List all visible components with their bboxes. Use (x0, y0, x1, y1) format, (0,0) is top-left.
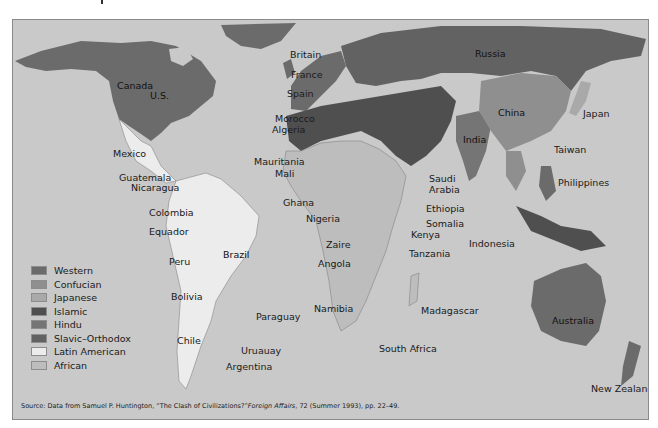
label-nigeria: Nigeria (306, 213, 340, 224)
legend-label: Slavic–Orthodox (54, 333, 131, 344)
legend-item-confucian: Confucian (31, 278, 131, 292)
label-spain: Spain (287, 88, 314, 99)
label-ghana: Ghana (283, 197, 314, 208)
label-namibia: Namibia (314, 303, 353, 314)
legend-swatch (31, 307, 47, 316)
southeast-asia (506, 151, 526, 191)
label-britain: Britain (290, 49, 321, 60)
label-zaire: Zaire (326, 239, 351, 250)
label-canada: Canada (117, 80, 153, 91)
legend-label: Islamic (54, 306, 87, 317)
legend-item-slavic-orthodox: Slavic–Orthodox (31, 332, 131, 346)
label-taiwan: Taiwan (554, 144, 586, 155)
label-colombia: Colombia (149, 207, 194, 218)
label-equador: Equador (149, 226, 189, 237)
label-philippines: Philippines (558, 177, 609, 188)
legend-swatch (31, 280, 47, 289)
label-south-africa: South Africa (379, 343, 437, 354)
label-argentina: Argentina (226, 361, 272, 372)
legend-label: Latin American (54, 346, 126, 357)
region-latin-america-south (166, 173, 259, 389)
legend-item-islamic: Islamic (31, 305, 131, 319)
legend-swatch (31, 266, 47, 275)
philippines (539, 166, 556, 201)
label-saudi-arabia-1: Saudi (429, 173, 456, 184)
label-uruauay: Uruauay (241, 345, 281, 356)
legend-swatch (31, 361, 47, 370)
label-angola: Angola (318, 258, 351, 269)
label-new-zealand: New Zealand (591, 383, 649, 394)
label-paraguay: Paraguay (256, 311, 300, 322)
legend-swatch (31, 293, 47, 302)
legend-item-african: African (31, 359, 131, 373)
legend-label: Confucian (54, 279, 102, 290)
source-suffix: , 72 (Summer 1993), pp. 22–49. (295, 402, 399, 410)
legend-swatch (31, 334, 47, 343)
madagascar (409, 273, 419, 306)
label-brazil: Brazil (223, 249, 250, 260)
label-us: U.S. (150, 90, 169, 101)
source-citation: Source: Data from Samuel P. Huntington, … (21, 402, 399, 410)
stray-mark (101, 0, 103, 4)
region-western-europe (291, 51, 346, 111)
new-zealand (621, 341, 641, 386)
source-journal: Foreign Affairs (248, 402, 296, 410)
legend-swatch (31, 347, 47, 356)
legend-item-japanese: Japanese (31, 291, 131, 305)
label-somalia: Somalia (426, 218, 464, 229)
region-islamic-indonesia (516, 206, 606, 251)
label-morocco: Morocco (275, 113, 315, 124)
label-france: France (291, 69, 323, 80)
source-prefix: Source: Data from Samuel P. Huntington, … (21, 402, 248, 410)
label-madagascar: Madagascar (421, 305, 479, 316)
label-mauritania: Mauritania (254, 156, 305, 167)
legend-swatch (31, 320, 47, 329)
label-australia: Australia (552, 315, 594, 326)
legend-label: Hindu (54, 319, 82, 330)
label-algeria: Algeria (272, 124, 305, 135)
label-japan: Japan (583, 108, 610, 119)
label-saudi-arabia-2: Arabia (429, 184, 460, 195)
legend-item-latin-american: Latin American (31, 345, 131, 359)
legend-item-western: Western (31, 264, 131, 278)
label-india: India (463, 134, 486, 145)
label-bolivia: Bolivia (171, 291, 203, 302)
legend-label: African (54, 360, 87, 371)
label-tanzania: Tanzania (409, 248, 450, 259)
label-kenya: Kenya (411, 229, 440, 240)
legend-label: Japanese (54, 292, 97, 303)
map-legend: Western Confucian Japanese Islamic Hindu… (31, 264, 131, 372)
label-mexico: Mexico (113, 148, 146, 159)
label-ethiopia: Ethiopia (426, 203, 465, 214)
greenland (221, 23, 296, 49)
label-chile: Chile (177, 335, 201, 346)
label-peru: Peru (169, 256, 190, 267)
label-mali: Mali (275, 168, 294, 179)
label-nicaragua: Nicaragua (131, 182, 179, 193)
legend-label: Western (54, 265, 93, 276)
legend-item-hindu: Hindu (31, 318, 131, 332)
region-western-australia (531, 263, 606, 346)
label-indonesia: Indonesia (469, 238, 515, 249)
label-china: China (498, 107, 525, 118)
label-russia: Russia (475, 48, 506, 59)
